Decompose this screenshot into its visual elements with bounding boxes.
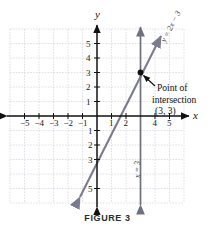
annotation-leader-arrow	[144, 76, 156, 87]
intersection-annotation-line1: Point of	[157, 84, 187, 94]
x-tick-label-5: 5	[167, 119, 172, 128]
figure-caption: FIGURE 3	[0, 213, 215, 223]
x-tick-label-4: 4	[153, 119, 158, 128]
y-axis-label: y	[95, 9, 100, 20]
y-tick-label--1: 1	[88, 127, 93, 136]
y-tick-label--2: 2	[88, 141, 93, 150]
x-tick-label--2: −2	[64, 119, 74, 128]
x-tick-label-1: 1	[109, 119, 114, 128]
y-tick-label-1: 1	[86, 98, 91, 107]
y-tick-label-5: 5	[86, 40, 91, 49]
x-tick-label--5: −5	[20, 119, 30, 128]
y-tick-label-2: 2	[86, 83, 91, 92]
intersection-annotation-line2: intersection	[152, 96, 196, 106]
y-tick-label-3: 3	[86, 69, 91, 78]
y-tick-label-4: 4	[86, 54, 91, 63]
x-tick-label--1: −1	[78, 119, 88, 128]
intersection-annotation-coordinates: (3, 3)	[155, 107, 176, 117]
x-tick-label--3: −3	[49, 119, 59, 128]
y-tick-label--5: 5	[88, 185, 93, 194]
vertical-line-equation-label: x = 3	[134, 161, 142, 178]
figure-container: y x −5 −4 −3 −2 −1 1 2 4 5 5 4 3 2 1 1 2…	[0, 0, 215, 234]
coordinate-plane-graphic	[0, 0, 215, 234]
y-tick-label--3: 3	[88, 156, 93, 165]
x-tick-label-2: 2	[124, 119, 129, 128]
x-tick-label--4: −4	[35, 119, 45, 128]
intersection-point-marker	[138, 70, 144, 76]
x-axis-label: x	[193, 110, 198, 121]
